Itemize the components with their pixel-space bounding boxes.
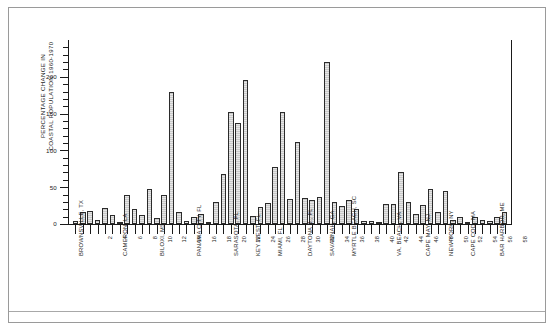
bar xyxy=(102,208,108,224)
bar xyxy=(339,206,345,224)
x-tick-label: 26 xyxy=(285,236,291,258)
y-axis-title: PERCENTAGE CHANGE IN COASTAL POPULATION … xyxy=(39,6,55,186)
bar xyxy=(235,123,241,224)
bar xyxy=(272,167,278,224)
city-label: MIAMI, FL xyxy=(277,227,283,256)
x-tick xyxy=(223,225,224,234)
bar xyxy=(369,221,375,224)
x-tick xyxy=(135,225,136,234)
x-tick xyxy=(186,225,187,234)
bar xyxy=(487,221,493,224)
x-tick xyxy=(90,225,91,234)
bar xyxy=(287,199,293,224)
x-tick-label: 18 xyxy=(226,236,232,258)
x-tick-label: 8 xyxy=(152,236,158,258)
x-tick xyxy=(327,225,328,234)
x-tick-label: 42 xyxy=(403,236,409,258)
bar xyxy=(280,112,286,224)
x-tick-label: 54 xyxy=(492,236,498,258)
city-label: VA. BEACH, VA xyxy=(396,212,402,256)
x-tick-label: 16 xyxy=(211,236,217,258)
x-tick xyxy=(209,225,210,234)
x-tick xyxy=(246,225,247,234)
bar xyxy=(161,195,167,224)
x-tick xyxy=(216,225,217,234)
bar xyxy=(406,202,412,224)
city-label: DAYTONA B., FL xyxy=(307,208,313,256)
x-tick-label: 58 xyxy=(522,236,528,258)
x-tick xyxy=(179,225,180,234)
x-tick xyxy=(342,225,343,234)
bar xyxy=(213,202,219,224)
bar xyxy=(435,212,441,225)
x-tick-label: 38 xyxy=(374,236,380,258)
x-tick xyxy=(305,225,306,234)
bar xyxy=(221,174,227,224)
city-label: BILOXI, MS xyxy=(159,223,165,256)
x-tick xyxy=(490,225,491,234)
x-tick xyxy=(460,225,461,234)
x-tick-label: 6 xyxy=(137,236,143,258)
y-tick-label: 200 xyxy=(17,73,57,80)
x-tick-label: 50 xyxy=(463,236,469,258)
x-tick xyxy=(386,225,387,234)
x-tick xyxy=(172,225,173,234)
x-tick xyxy=(105,225,106,234)
x-tick xyxy=(445,225,446,234)
city-label: SARASOTA, FL xyxy=(233,212,239,256)
bar xyxy=(361,221,367,224)
x-tick xyxy=(468,225,469,234)
city-label: PANAMA CITY, FL xyxy=(196,204,202,256)
y-tick-label: 0 xyxy=(17,220,57,227)
bar xyxy=(184,221,190,224)
bar xyxy=(383,204,389,224)
bar-series xyxy=(68,40,512,224)
x-tick xyxy=(231,225,232,234)
bar xyxy=(413,214,419,224)
y-tick-label: 50 xyxy=(17,184,57,191)
x-tick xyxy=(268,225,269,234)
x-tick xyxy=(194,225,195,234)
x-tick-label: 20 xyxy=(241,236,247,258)
bar xyxy=(95,220,101,224)
x-tick xyxy=(75,225,76,234)
bar xyxy=(87,211,93,224)
y-tick-label: 100 xyxy=(17,147,57,154)
x-tick xyxy=(320,225,321,234)
bar xyxy=(295,142,301,224)
city-label: CAPE MAY, NJ xyxy=(425,214,431,256)
x-tick xyxy=(142,225,143,234)
bar xyxy=(317,197,323,224)
x-tick xyxy=(438,225,439,234)
x-tick xyxy=(149,225,150,234)
x-tick-label: 44 xyxy=(418,236,424,258)
x-tick-label: 56 xyxy=(507,236,513,258)
x-tick-label: 24 xyxy=(270,236,276,258)
bar xyxy=(324,62,330,224)
x-tick-label: 2 xyxy=(107,236,113,258)
city-label: CAPE COD, MA xyxy=(470,211,476,256)
bar xyxy=(457,217,463,224)
bar xyxy=(169,92,175,224)
bar xyxy=(110,215,116,224)
y-tick-label: 150 xyxy=(17,110,57,117)
x-tick xyxy=(482,225,483,234)
city-label: SAVANNAH, GA xyxy=(329,210,335,256)
x-tick-label: 34 xyxy=(344,236,350,258)
x-tick-label: 36 xyxy=(359,236,365,258)
city-label: NEW YORK, NY xyxy=(448,210,454,256)
y-axis-title-line1: PERCENTAGE CHANGE IN xyxy=(39,54,46,138)
y-axis-title-line2: COASTAL POPULATION 1960-1970 xyxy=(47,42,54,151)
x-tick xyxy=(364,225,365,234)
x-tick-label: 30 xyxy=(315,236,321,258)
x-tick xyxy=(157,225,158,234)
bar xyxy=(147,189,153,224)
city-label: MYRTLE BEACH, SC xyxy=(351,196,357,256)
x-tick xyxy=(290,225,291,234)
bar xyxy=(176,212,182,224)
city-label: KEY WEST, FL xyxy=(255,214,261,256)
x-tick xyxy=(253,225,254,234)
x-tick xyxy=(98,225,99,234)
x-tick xyxy=(408,225,409,234)
bar xyxy=(132,209,138,224)
